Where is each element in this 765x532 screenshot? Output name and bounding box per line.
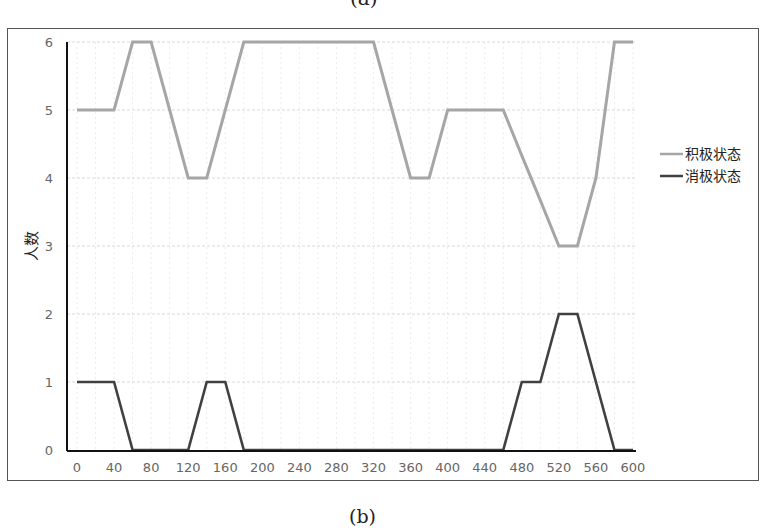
legend-label: 消极状态 [685, 168, 741, 184]
x-tick-label: 600 [621, 460, 646, 475]
x-tick-label: 320 [361, 460, 386, 475]
x-tick-label: 160 [213, 460, 238, 475]
x-tick-label: 400 [435, 460, 460, 475]
x-tick-label: 440 [472, 460, 497, 475]
y-tick-label: 3 [45, 239, 53, 254]
x-axis-ticks: 0408012016020024028032036040044048052056… [73, 460, 646, 475]
x-tick-label: 360 [398, 460, 423, 475]
line-chart: 0123456 04080120160200240280320360400440… [0, 0, 765, 532]
y-axis-label: 人数 [23, 231, 41, 261]
x-tick-label: 280 [324, 460, 349, 475]
x-tick-label: 0 [73, 460, 81, 475]
x-tick-label: 480 [509, 460, 534, 475]
x-tick-label: 520 [546, 460, 571, 475]
grid-lines [67, 42, 636, 450]
y-tick-label: 5 [45, 103, 53, 118]
caption-bottom: (b) [349, 505, 376, 527]
y-tick-label: 4 [45, 171, 53, 186]
x-tick-label: 40 [106, 460, 123, 475]
y-tick-label: 1 [45, 375, 53, 390]
x-tick-label: 240 [287, 460, 312, 475]
x-tick-label: 80 [143, 460, 160, 475]
y-tick-label: 6 [45, 35, 53, 50]
y-tick-label: 0 [45, 443, 53, 458]
y-axis-ticks: 0123456 [45, 35, 53, 458]
x-tick-label: 200 [250, 460, 275, 475]
y-tick-label: 2 [45, 307, 53, 322]
x-tick-label: 120 [176, 460, 201, 475]
legend-label: 积极状态 [685, 146, 741, 162]
x-tick-label: 560 [584, 460, 609, 475]
legend: 积极状态消极状态 [660, 146, 741, 184]
